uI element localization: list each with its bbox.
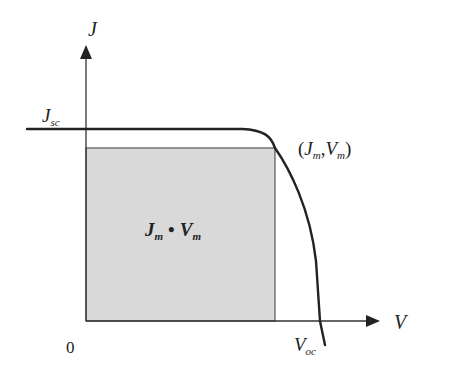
max-power-point-label: (Jm,Vm) [298,138,351,161]
jv-curve-diagram: J V 0 Jsc Voc (Jm,Vm) Jm•Vm [0,0,458,373]
origin-label: 0 [66,338,75,357]
area-dot: • [168,219,175,240]
voc-label: Voc [294,334,316,357]
mpp-close-paren: ) [345,138,351,160]
voc-subscript: oc [306,345,317,357]
area-j: J [144,219,155,240]
jsc-label: Jsc [42,105,60,128]
jsc-subscript: sc [50,116,59,128]
y-axis-arrowhead-icon [80,45,92,59]
mpp-j-sub: m [313,149,321,161]
x-axis-label: V [394,311,409,333]
area-v-sub: m [192,230,201,242]
mpp-v-sub: m [337,149,345,161]
y-axis-label: J [88,18,98,40]
area-j-sub: m [155,230,164,242]
x-axis-arrowhead-icon [366,315,380,327]
